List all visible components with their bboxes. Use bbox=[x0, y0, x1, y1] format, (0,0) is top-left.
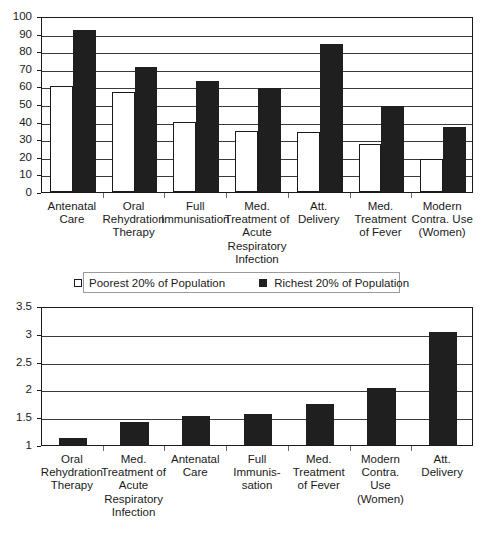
bar bbox=[50, 86, 73, 192]
bar bbox=[59, 438, 87, 445]
y-axis-tick-mark bbox=[37, 193, 41, 194]
y-axis-tick-mark bbox=[37, 17, 41, 18]
x-axis-category-separator bbox=[411, 446, 412, 451]
bar bbox=[320, 44, 343, 192]
y-axis-tick-label: 2.5 bbox=[0, 357, 32, 369]
y-axis-tick-label: 50 bbox=[0, 99, 32, 111]
x-axis-category-separator bbox=[164, 193, 165, 198]
bar bbox=[196, 81, 219, 192]
chart-legend: Poorest 20% of PopulationRichest 20% of … bbox=[83, 272, 400, 293]
y-axis-tick-mark bbox=[37, 140, 41, 141]
y-axis-tick-label: 3.5 bbox=[0, 301, 32, 313]
y-axis-tick-label: 1.5 bbox=[0, 412, 32, 424]
y-axis-tick-label: 90 bbox=[0, 29, 32, 41]
x-axis-label-line: Modern bbox=[405, 200, 479, 213]
x-axis-label-line: Respiratory bbox=[97, 493, 171, 506]
legend-swatch-poorest-icon bbox=[74, 279, 82, 287]
gridline bbox=[42, 88, 472, 89]
y-axis-tick-mark bbox=[37, 418, 41, 419]
y-axis-tick-mark bbox=[37, 158, 41, 159]
bar bbox=[367, 388, 395, 445]
x-axis-label-line: Acute bbox=[97, 479, 171, 492]
bar bbox=[235, 131, 258, 192]
gridline bbox=[42, 36, 472, 37]
x-axis-label-line: Respiratory bbox=[220, 240, 294, 253]
x-axis-label-line: Therapy bbox=[97, 226, 171, 239]
bar bbox=[120, 422, 148, 445]
y-axis-tick-mark bbox=[37, 70, 41, 71]
x-axis-category-separator bbox=[226, 446, 227, 451]
bar bbox=[73, 30, 96, 192]
figure-two-bar-charts: 0102030405060708090100AntenatalCareOralR… bbox=[0, 0, 487, 533]
x-axis-category-separator bbox=[288, 193, 289, 198]
y-axis-tick-mark bbox=[37, 175, 41, 176]
x-axis-category-separator bbox=[350, 193, 351, 198]
gridline bbox=[42, 53, 472, 54]
y-axis-tick-mark bbox=[37, 307, 41, 308]
x-axis-label-line: Delivery bbox=[405, 466, 479, 479]
x-axis-label-line: Use bbox=[344, 479, 418, 492]
x-axis-category-separator bbox=[103, 193, 104, 198]
x-axis-category-separator bbox=[411, 193, 412, 198]
x-axis-label-line: (Women) bbox=[344, 493, 418, 506]
bar bbox=[429, 332, 457, 445]
gridline bbox=[42, 124, 472, 125]
y-axis-tick-label: 2 bbox=[0, 384, 32, 396]
y-axis-tick-label: 70 bbox=[0, 64, 32, 76]
plot-area-top bbox=[41, 17, 473, 193]
y-axis-tick-mark bbox=[37, 35, 41, 36]
y-axis-tick-mark bbox=[37, 87, 41, 88]
y-axis-tick-label: 1 bbox=[0, 440, 32, 452]
y-axis-tick-mark bbox=[37, 52, 41, 53]
gridline bbox=[42, 106, 472, 107]
gridline bbox=[42, 71, 472, 72]
bar bbox=[173, 122, 196, 192]
bar bbox=[258, 88, 281, 192]
bar bbox=[381, 106, 404, 192]
legend-label: Poorest 20% of Population bbox=[89, 277, 225, 289]
x-axis-label-line: Att. bbox=[405, 453, 479, 466]
legend-item-richest: Richest 20% of Population bbox=[259, 277, 409, 289]
plot-area-bottom bbox=[41, 307, 473, 446]
x-axis-label-line: Infection bbox=[97, 506, 171, 519]
bar bbox=[244, 414, 272, 445]
bar bbox=[443, 127, 466, 192]
bar bbox=[112, 92, 135, 192]
x-axis-label-line: Contra. Use bbox=[405, 213, 479, 226]
bar bbox=[420, 159, 443, 192]
bar bbox=[135, 67, 158, 192]
y-axis-tick-mark bbox=[37, 123, 41, 124]
x-axis-category-separator bbox=[350, 446, 351, 451]
y-axis-tick-label: 60 bbox=[0, 81, 32, 93]
x-axis-category-label: Att.Delivery bbox=[405, 453, 479, 479]
bar bbox=[182, 416, 210, 445]
y-axis-tick-label: 100 bbox=[0, 11, 32, 23]
chart-coverage-by-wealth-quintile: 0102030405060708090100AntenatalCareOralR… bbox=[0, 0, 487, 262]
x-axis-category-separator bbox=[103, 446, 104, 451]
y-axis-tick-mark bbox=[37, 105, 41, 106]
y-axis-tick-label: 30 bbox=[0, 134, 32, 146]
x-axis-category-separator bbox=[164, 446, 165, 451]
y-axis-tick-label: 20 bbox=[0, 152, 32, 164]
x-axis-category-separator bbox=[226, 193, 227, 198]
legend-label: Richest 20% of Population bbox=[274, 277, 409, 289]
y-axis-tick-label: 10 bbox=[0, 169, 32, 181]
y-axis-tick-label: 40 bbox=[0, 117, 32, 129]
bar bbox=[297, 132, 320, 192]
x-axis-category-label: ModernContra. Use(Women) bbox=[405, 200, 479, 240]
bar bbox=[306, 404, 334, 445]
y-axis-tick-mark bbox=[37, 390, 41, 391]
y-axis-tick-mark bbox=[37, 363, 41, 364]
legend-item-poorest: Poorest 20% of Population bbox=[74, 277, 225, 289]
y-axis-tick-label: 0 bbox=[0, 187, 32, 199]
x-axis-label-line: Acute bbox=[220, 226, 294, 239]
chart-richest-to-poorest-ratio: 11.522.533.5OralRehydrationTherapyMed.Tr… bbox=[0, 300, 487, 533]
y-axis-tick-label: 80 bbox=[0, 46, 32, 58]
gridline bbox=[42, 364, 472, 365]
x-axis-category-separator bbox=[288, 446, 289, 451]
x-axis-label-line: Infection bbox=[220, 253, 294, 266]
x-axis-label-line: (Women) bbox=[405, 226, 479, 239]
bar bbox=[359, 144, 382, 192]
y-axis-tick-label: 3 bbox=[0, 329, 32, 341]
legend-swatch-richest-icon bbox=[259, 279, 267, 287]
